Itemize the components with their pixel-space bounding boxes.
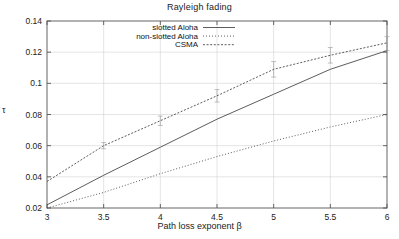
y-tick-label: 0.1 xyxy=(2,78,42,88)
x-tick-label: 6 xyxy=(367,212,399,222)
y-tick-label: 0.08 xyxy=(2,110,42,120)
x-tick-label: 5 xyxy=(254,212,294,222)
x-tick-label: 3.5 xyxy=(84,212,124,222)
y-tick-label: 0.04 xyxy=(2,172,42,182)
y-tick-label: 0.14 xyxy=(2,16,42,26)
x-tick-label: 3 xyxy=(27,212,67,222)
chart-container: Rayleigh fading τ Path loss exponent β 0… xyxy=(0,0,399,239)
y-tick-label: 0.06 xyxy=(2,141,42,151)
x-tick-label: 4.5 xyxy=(197,212,237,222)
x-tick-label: 4 xyxy=(140,212,180,222)
legend-label-2: CSMA xyxy=(60,40,198,49)
y-tick-label: 0.12 xyxy=(2,47,42,57)
x-tick-label: 5.5 xyxy=(310,212,350,222)
